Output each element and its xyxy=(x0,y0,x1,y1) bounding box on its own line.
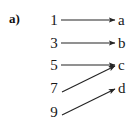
codomain-node-a: a xyxy=(118,13,132,28)
domain-node-5: 5 xyxy=(47,58,61,73)
mapping-arrow-9-to-d xyxy=(62,89,115,115)
codomain-node-d: d xyxy=(118,81,132,96)
codomain-node-b: b xyxy=(118,36,132,51)
mapping-diagram-figure: a) 13579 abcd xyxy=(0,0,138,121)
codomain-node-c: c xyxy=(118,58,132,73)
mapping-arrow-7-to-c xyxy=(62,66,115,92)
domain-node-7: 7 xyxy=(47,81,61,96)
domain-node-3: 3 xyxy=(47,36,61,51)
arrow-group xyxy=(61,20,115,115)
domain-node-9: 9 xyxy=(47,105,61,120)
domain-node-1: 1 xyxy=(47,13,61,28)
